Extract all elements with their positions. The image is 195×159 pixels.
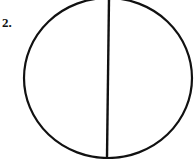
circle-diagram [0, 0, 195, 159]
vertical-diameter-line [107, 0, 109, 158]
